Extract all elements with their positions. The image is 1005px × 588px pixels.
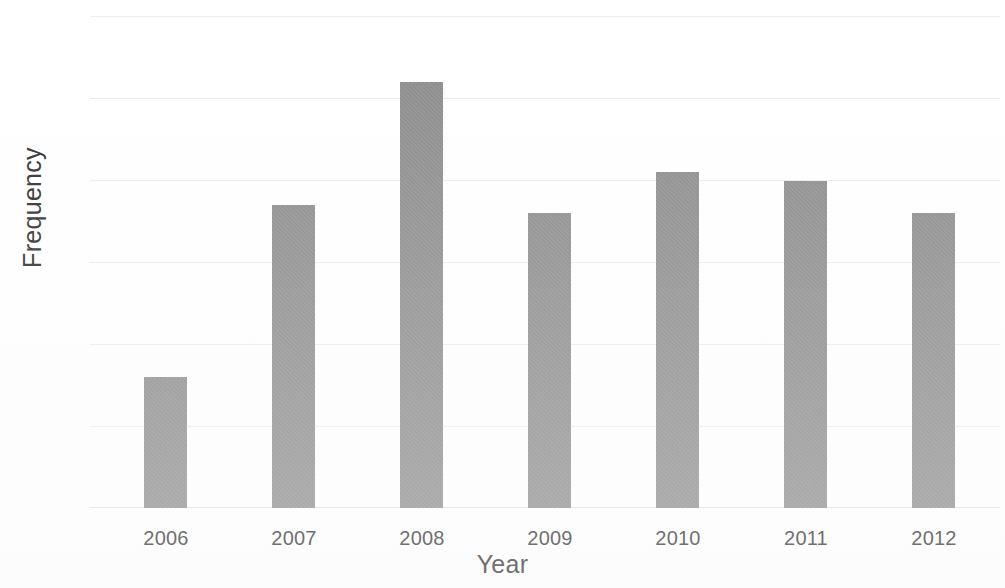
- bar-group-2006: [102, 16, 230, 508]
- x-tick-label-2012: 2012: [870, 528, 998, 548]
- bar-group-2009: [486, 16, 614, 508]
- bar-chart-figure: Frequency 60 50 40 30 20 10 0: [0, 0, 1005, 588]
- bar-2010: [656, 172, 699, 508]
- plot-area: 60 50 40 30 20 10 0 2006 2007 200: [90, 16, 1000, 508]
- x-axis-title: Year: [0, 552, 1005, 577]
- bar-2008: [400, 82, 443, 508]
- x-tick-label-2008: 2008: [358, 528, 486, 548]
- bar-2007: [272, 205, 315, 508]
- x-tick-label-2010: 2010: [614, 528, 742, 548]
- bar-group-2012: [870, 16, 998, 508]
- bar-group-2010: [614, 16, 742, 508]
- bar-group-2007: [230, 16, 358, 508]
- x-tick-label-2011: 2011: [742, 528, 870, 548]
- bar-group-2008: [358, 16, 486, 508]
- bar-2012: [912, 213, 955, 508]
- x-tick-label-2007: 2007: [230, 528, 358, 548]
- bar-2006: [144, 377, 187, 508]
- y-axis-title: Frequency: [20, 98, 45, 318]
- bar-group-2011: [742, 16, 870, 508]
- x-tick-label-2006: 2006: [102, 528, 230, 548]
- bar-2009: [528, 213, 571, 508]
- x-tick-label-2009: 2009: [486, 528, 614, 548]
- bar-2011: [784, 181, 827, 508]
